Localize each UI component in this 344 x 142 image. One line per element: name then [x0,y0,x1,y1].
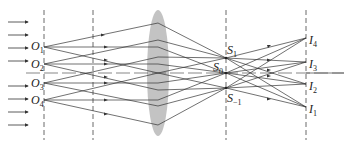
ray-arrows-left [101,34,108,116]
optics-diagram [0,0,344,142]
label-i3: I3 [309,58,317,73]
label-o4: O4 [31,94,44,109]
label-o1: O1 [31,40,44,55]
label-o3: O3 [31,77,44,92]
label-s1: S1 [227,44,237,59]
label-s-1: S−1 [227,92,242,107]
rays-object-side [44,23,158,125]
label-s0: S0 [213,61,223,76]
label-i4: I4 [309,34,317,49]
label-i2: I2 [309,80,317,95]
incident-arrows [8,22,28,125]
rays-image-side [158,23,306,125]
label-o2: O2 [31,58,44,73]
label-i1: I1 [309,103,317,118]
